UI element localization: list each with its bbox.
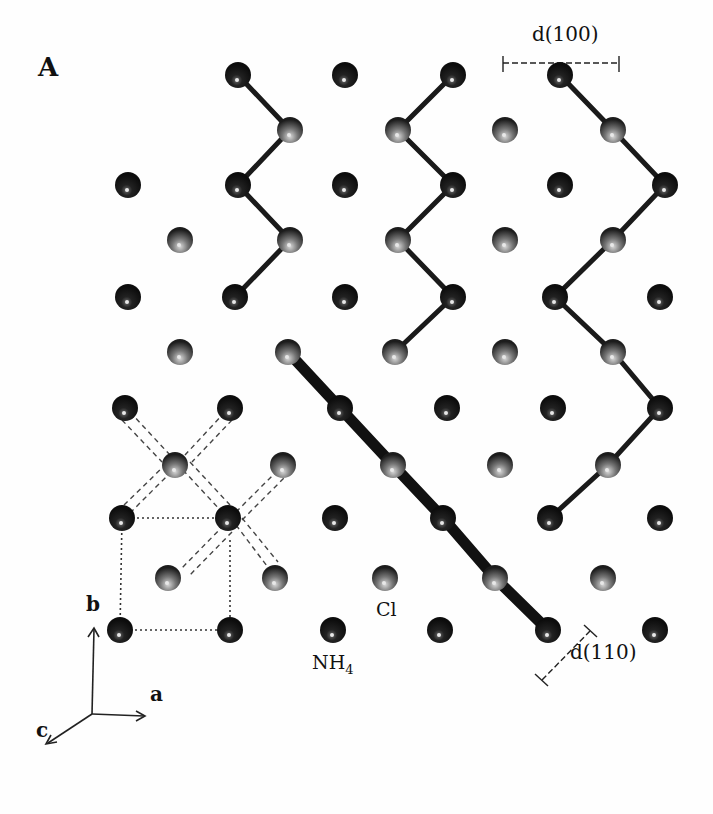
nh4-atom xyxy=(225,62,251,88)
zigzag-chain-middle xyxy=(395,75,453,352)
cl-atom xyxy=(167,227,193,253)
atom-highlight xyxy=(547,521,551,525)
nh4-atom xyxy=(540,395,566,421)
atom-highlight xyxy=(557,188,561,192)
nh4-atom xyxy=(112,395,138,421)
nh4-atom xyxy=(430,505,456,531)
atom-highlight xyxy=(440,521,444,525)
atom-highlight xyxy=(450,78,454,82)
cl-label: Cl xyxy=(376,598,397,620)
atom-highlight xyxy=(165,581,169,585)
nh4-atom xyxy=(542,284,568,310)
cl-atom xyxy=(162,452,188,478)
atom-highlight xyxy=(337,411,341,415)
cl-atom xyxy=(482,565,508,591)
cl-atom xyxy=(492,339,518,365)
atom-highlight xyxy=(450,188,454,192)
panel-label: A xyxy=(38,52,58,82)
nh4-atom xyxy=(652,172,678,198)
atom-highlight xyxy=(600,581,604,585)
diagonal-110-plane xyxy=(288,352,548,630)
nh4-atom xyxy=(434,395,460,421)
atom-highlight xyxy=(342,78,346,82)
atom-highlight xyxy=(287,243,291,247)
atom-highlight xyxy=(395,243,399,247)
nh4-atom xyxy=(647,284,673,310)
nh4-atom xyxy=(440,62,466,88)
atom-highlight xyxy=(657,411,661,415)
atom-highlight xyxy=(502,243,506,247)
atom-highlight xyxy=(444,411,448,415)
atom-highlight xyxy=(280,468,284,472)
cl-atom xyxy=(275,339,301,365)
atom-highlight xyxy=(235,78,239,82)
atom-highlight xyxy=(227,411,231,415)
atom-highlight xyxy=(177,355,181,359)
atom-highlight xyxy=(437,633,441,637)
atom-highlight xyxy=(285,355,289,359)
atom-highlight xyxy=(502,355,506,359)
atom-highlight xyxy=(287,133,291,137)
axis-triad xyxy=(46,628,145,744)
atom-highlight xyxy=(227,633,231,637)
nh4-atom xyxy=(642,617,668,643)
cl-atom xyxy=(590,565,616,591)
nh4-atom xyxy=(327,395,353,421)
atom-highlight xyxy=(232,300,236,304)
atom-highlight xyxy=(119,521,123,525)
atom-highlight xyxy=(662,188,666,192)
nh4-atom xyxy=(215,505,241,531)
cl-atom xyxy=(270,452,296,478)
nh4-atom xyxy=(427,617,453,643)
atom-highlight xyxy=(395,133,399,137)
nh4-atom xyxy=(115,284,141,310)
cl-atom xyxy=(277,117,303,143)
atom-highlight xyxy=(332,521,336,525)
nh4-label-subscript: 4 xyxy=(345,662,353,677)
lattice-drawing xyxy=(0,0,713,814)
hydrogen-bond-network xyxy=(122,412,284,577)
atom-highlight xyxy=(605,468,609,472)
atom-highlight xyxy=(557,78,561,82)
nh4-label-base: NH xyxy=(312,651,345,673)
atom-highlight xyxy=(657,521,661,525)
atom-highlight xyxy=(342,188,346,192)
atom-highlight xyxy=(390,468,394,472)
cl-atom xyxy=(277,227,303,253)
nh4-atom xyxy=(332,172,358,198)
nh4-atom xyxy=(332,284,358,310)
atom-highlight xyxy=(550,411,554,415)
d110-label: d(110) xyxy=(570,640,637,664)
nh4-atom xyxy=(115,172,141,198)
crystal-structure-figure: A d(100) d(110) Cl NH4 b a c xyxy=(0,0,713,814)
atom-highlight xyxy=(125,300,129,304)
cl-atom xyxy=(155,565,181,591)
nh4-atom xyxy=(320,617,346,643)
atom-highlight xyxy=(610,243,614,247)
cl-atom xyxy=(262,565,288,591)
cl-atom xyxy=(600,117,626,143)
cl-atom xyxy=(595,452,621,478)
atom-highlight xyxy=(342,300,346,304)
atom-highlight xyxy=(545,633,549,637)
nh4-atom xyxy=(332,62,358,88)
nh4-atom xyxy=(107,617,133,643)
cl-atom xyxy=(380,452,406,478)
nh4-atom xyxy=(440,284,466,310)
cl-atom xyxy=(492,227,518,253)
atom-highlight xyxy=(657,300,661,304)
nh4-atom xyxy=(322,505,348,531)
nh4-atom xyxy=(535,617,561,643)
axis-b-label: b xyxy=(86,592,100,616)
atom-highlight xyxy=(125,188,129,192)
nh4-atom xyxy=(222,284,248,310)
axis-a-label: a xyxy=(150,682,163,706)
atom-highlight xyxy=(272,581,276,585)
atom-highlight xyxy=(172,468,176,472)
nh4-atom xyxy=(217,395,243,421)
cl-atom xyxy=(600,339,626,365)
atom-highlight xyxy=(502,133,506,137)
atom-highlight xyxy=(382,581,386,585)
d100-label: d(100) xyxy=(532,22,599,46)
atom-highlight xyxy=(610,355,614,359)
